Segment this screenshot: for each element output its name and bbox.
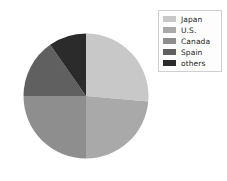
legend-label-others: others (181, 59, 206, 68)
legend-swatch-others (163, 60, 176, 66)
legend-swatch-spain (163, 49, 176, 55)
legend-label-spain: Spain (181, 48, 202, 57)
legend-label-japan: Japan (181, 15, 202, 24)
legend-swatch-japan (163, 16, 176, 22)
pie-slice-u-s[interactable] (86, 96, 148, 159)
legend-item-spain[interactable]: Spain (163, 47, 217, 57)
legend-swatch-canada (163, 38, 176, 44)
pie-svg (23, 33, 149, 159)
chart-figure: Japan U.S. Canada Spain others (0, 0, 227, 181)
legend-label-canada: Canada (181, 37, 210, 46)
pie-slice-group (24, 34, 149, 159)
pie-slice-canada[interactable] (24, 96, 87, 159)
legend-item-canada[interactable]: Canada (163, 36, 217, 46)
legend-swatch-us (163, 27, 176, 33)
legend-item-others[interactable]: others (163, 58, 217, 68)
legend-label-us: U.S. (181, 26, 196, 35)
legend-item-us[interactable]: U.S. (163, 25, 217, 35)
legend-item-japan[interactable]: Japan (163, 14, 217, 24)
chart-legend: Japan U.S. Canada Spain others (158, 10, 222, 72)
pie-slice-japan[interactable] (86, 34, 148, 102)
pie-chart (23, 33, 149, 159)
